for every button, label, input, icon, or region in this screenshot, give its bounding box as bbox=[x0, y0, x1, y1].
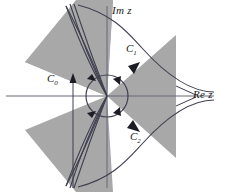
contour-c0-label: C0 bbox=[47, 72, 58, 87]
contour-c1-label: C1 bbox=[126, 42, 137, 57]
contour-c2-subscript: 2 bbox=[137, 137, 141, 145]
complex-plane-diagram: Im z Re z C0 C1 C2 bbox=[0, 0, 229, 192]
contour-c2-label: C2 bbox=[130, 130, 141, 145]
contour-c1-subscript: 1 bbox=[133, 49, 137, 57]
real-axis-label: Re z bbox=[193, 88, 213, 100]
imaginary-axis-label: Im z bbox=[112, 4, 132, 16]
contour-c0-subscript: 0 bbox=[54, 79, 58, 87]
